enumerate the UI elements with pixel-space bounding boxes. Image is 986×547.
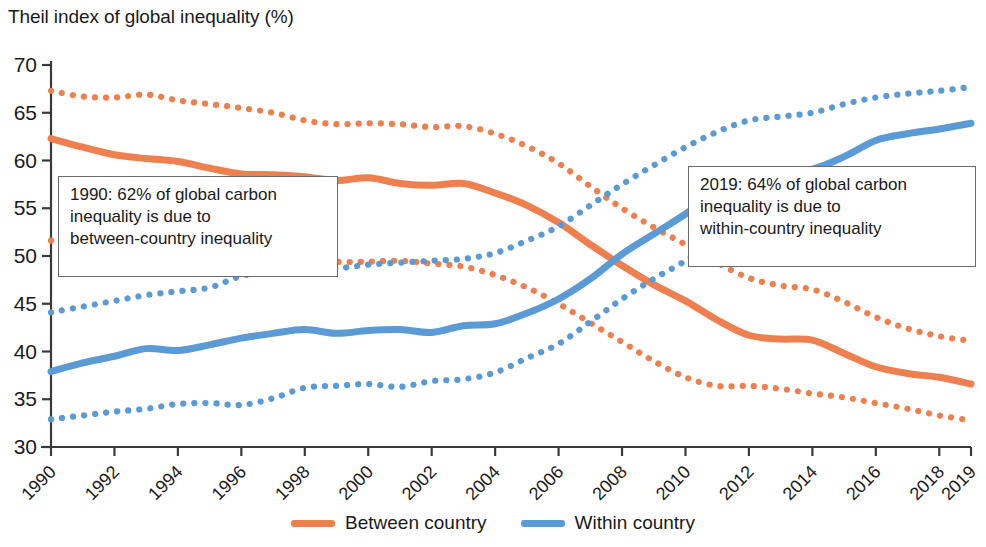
chart-container: Theil index of global inequality (%) 706… bbox=[0, 0, 986, 547]
x-axis-tick-label: 2008 bbox=[588, 462, 630, 504]
x-axis-tick-label: 2014 bbox=[779, 462, 821, 504]
x-axis-tick-label: 2006 bbox=[525, 462, 567, 504]
y-axis-tick-label: 70 bbox=[14, 53, 37, 76]
x-axis-tick-label: 2002 bbox=[398, 462, 440, 504]
x-axis-tick-label: 2016 bbox=[842, 462, 884, 504]
y-axis-tick-label: 30 bbox=[14, 435, 37, 458]
y-axis-tick-label: 45 bbox=[14, 292, 37, 315]
y-axis-tick-label: 40 bbox=[14, 340, 37, 363]
y-axis-tick-label: 65 bbox=[14, 101, 37, 124]
x-axis-tick-label: 2018 bbox=[906, 462, 948, 504]
annotation-right: 2019: 64% of global carbon inequality is… bbox=[688, 166, 976, 267]
x-axis-tick-label: 2012 bbox=[715, 462, 757, 504]
y-axis-tick-label: 50 bbox=[14, 244, 37, 267]
legend-swatch-between-country bbox=[291, 520, 335, 527]
x-axis-tick-label: 1996 bbox=[208, 462, 250, 504]
x-axis-tick-label: 2000 bbox=[335, 462, 377, 504]
x-axis-tick-label: 2010 bbox=[652, 462, 694, 504]
x-axis-tick-label: 2019 bbox=[937, 462, 979, 504]
legend-swatch-within-country bbox=[521, 520, 565, 527]
legend-label-between-country: Between country bbox=[345, 512, 487, 534]
y-axis-tick-label: 35 bbox=[14, 387, 37, 410]
legend-item-within-country: Within country bbox=[521, 512, 695, 534]
x-axis-tick-label: 1992 bbox=[81, 462, 123, 504]
chart-legend: Between country Within country bbox=[0, 512, 986, 534]
y-axis-tick-label: 55 bbox=[14, 196, 37, 219]
x-axis-tick-label: 2004 bbox=[462, 462, 504, 504]
x-axis-tick-label: 1998 bbox=[271, 462, 313, 504]
legend-item-between-country: Between country bbox=[291, 512, 487, 534]
annotation-left: 1990: 62% of global carbon inequality is… bbox=[58, 176, 338, 277]
x-axis-tick-label: 1990 bbox=[17, 462, 59, 504]
legend-label-within-country: Within country bbox=[575, 512, 695, 534]
y-axis-tick-label: 60 bbox=[14, 149, 37, 172]
x-axis-tick-label: 1994 bbox=[144, 462, 186, 504]
